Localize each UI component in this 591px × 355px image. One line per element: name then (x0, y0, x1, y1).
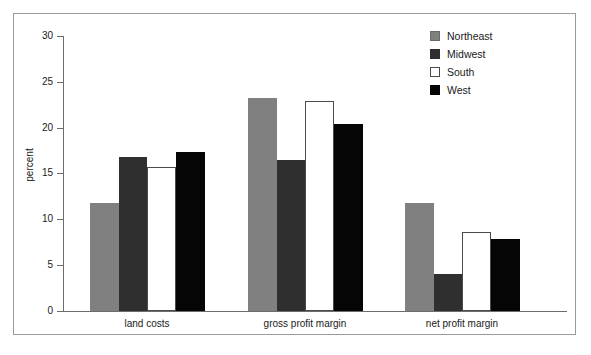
y-tick-label-5: 5 (7, 260, 53, 270)
bar-land-costs-northeast (90, 203, 119, 311)
legend-swatch-icon-northeast (430, 31, 440, 41)
y-tick-25 (57, 82, 63, 83)
bar-gross-profit-margin-northeast (248, 98, 277, 311)
x-tick-label-land-costs: land costs (87, 318, 207, 329)
bar-net-profit-margin-northeast (405, 203, 434, 311)
y-tick-5 (57, 265, 63, 266)
legend-item-northeast: Northeast (430, 28, 550, 44)
legend-item-west: West (430, 82, 550, 98)
y-axis-line (63, 36, 64, 312)
bar-net-profit-margin-west (491, 239, 520, 311)
legend-item-south: South (430, 64, 550, 80)
y-tick-label-10: 10 (7, 214, 53, 224)
y-axis-title: percent (25, 125, 35, 205)
y-tick-0 (57, 311, 63, 312)
bar-net-profit-margin-midwest (434, 274, 463, 311)
legend-label-midwest: Midwest (447, 49, 486, 60)
y-tick-10 (57, 219, 63, 220)
legend-swatch-icon-west (430, 85, 440, 95)
legend-swatch-icon-midwest (430, 49, 440, 59)
bar-gross-profit-margin-west (334, 124, 363, 311)
bar-land-costs-midwest (119, 157, 148, 311)
y-tick-label-25: 25 (7, 77, 53, 87)
legend-label-south: South (447, 67, 474, 78)
legend-item-midwest: Midwest (430, 46, 550, 62)
y-tick-label-30: 30 (7, 31, 53, 41)
legend-label-northeast: Northeast (447, 31, 493, 42)
bar-land-costs-south (147, 167, 176, 311)
legend-label-west: West (447, 85, 471, 96)
bar-gross-profit-margin-south (305, 101, 334, 311)
y-tick-30 (57, 36, 63, 37)
bar-gross-profit-margin-midwest (277, 160, 306, 311)
x-tick-label-gross-profit-margin: gross profit margin (245, 318, 365, 329)
y-tick-15 (57, 173, 63, 174)
legend-swatch-icon-south (430, 67, 440, 77)
x-tick-label-net-profit-margin: net profit margin (402, 318, 522, 329)
y-tick-20 (57, 128, 63, 129)
y-tick-label-0: 0 (7, 306, 53, 316)
bar-net-profit-margin-south (462, 232, 491, 311)
legend: Northeast Midwest South West (430, 28, 550, 100)
bar-land-costs-west (176, 152, 205, 311)
x-axis-line (63, 311, 567, 312)
chart-figure: 30 25 20 15 10 5 0 percent land costs gr… (0, 0, 591, 355)
